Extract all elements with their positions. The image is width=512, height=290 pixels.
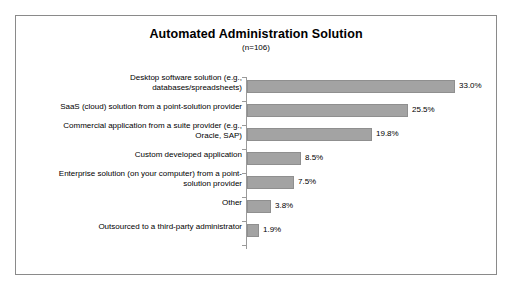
category-label: Desktop software solution (e.g., databas… [27,73,242,92]
bar-row: Outsourced to a third-party administrato… [16,221,498,245]
plot-area: Desktop software solution (e.g., databas… [16,64,498,269]
bar-value-label: 8.5% [305,153,323,162]
category-label-line: Oracle, SAP) [195,131,242,140]
category-label: Enterprise solution (on your computer) f… [27,169,242,188]
axis-tick [242,77,247,78]
bar-value-label: 1.9% [263,225,281,234]
bar [247,224,259,237]
bar [247,80,455,93]
bar [247,176,294,189]
bar-row: Enterprise solution (on your computer) f… [16,173,498,197]
bar-row: Other 3.8% [16,197,498,221]
bar [247,104,408,117]
axis-tick [242,149,247,150]
category-label-line: solution provider [183,179,242,188]
category-label-line: Outsourced to a third-party administrato… [98,222,242,231]
category-label-line: Custom developed application [135,150,242,159]
axis-tick [242,101,247,102]
bar-value-label: 33.0% [459,81,482,90]
chart-title: Automated Administration Solution [16,27,496,41]
category-label: Other [27,198,242,208]
bar-value-label: 3.8% [275,201,293,210]
category-label-line: Other [222,198,242,207]
bar [247,200,271,213]
category-label-line: Enterprise solution (on your computer) f… [59,169,242,178]
axis-tick [242,221,247,222]
category-label: SaaS (cloud) solution from a point-solut… [27,102,242,112]
category-label: Custom developed application [27,150,242,160]
chart-frame: Automated Administration Solution (n=106… [15,15,497,275]
category-label-line: databases/spreadsheets) [152,83,242,92]
category-label: Outsourced to a third-party administrato… [27,222,242,232]
bar-row: Desktop software solution (e.g., databas… [16,77,498,101]
axis-tick [242,197,247,198]
axis-tick [242,173,247,174]
axis-tick [242,125,247,126]
bar-value-label: 7.5% [298,177,316,186]
bar-value-label: 19.8% [376,129,399,138]
category-label-line: Desktop software solution (e.g., [130,73,242,82]
bar-row: Commercial application from a suite prov… [16,125,498,149]
bar [247,152,301,165]
chart-subtitle: (n=106) [16,43,496,52]
category-label-line: SaaS (cloud) solution from a point-solut… [60,102,242,111]
category-label-line: Commercial application from a suite prov… [63,121,242,130]
bar [247,128,372,141]
axis-tick [242,245,247,246]
category-label: Commercial application from a suite prov… [27,121,242,140]
bar-value-label: 25.5% [412,105,435,114]
